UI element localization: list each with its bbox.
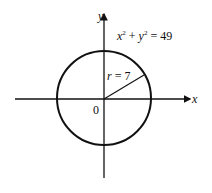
- radius-eq: = 7: [112, 69, 131, 83]
- eq-plus: +: [126, 29, 139, 43]
- y-axis-label: y: [98, 10, 103, 22]
- circle-diagram: [0, 0, 212, 193]
- radius-label: r = 7: [107, 70, 130, 82]
- eq-rhs: = 49: [147, 29, 172, 43]
- origin-label: 0: [93, 104, 99, 116]
- equation-label: x2 + y2 = 49: [117, 30, 172, 42]
- x-axis-label: x: [192, 93, 197, 105]
